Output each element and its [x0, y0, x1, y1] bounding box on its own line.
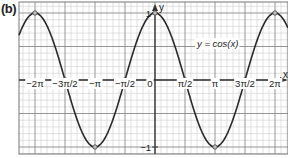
data-point	[93, 145, 97, 149]
data-point	[33, 11, 37, 15]
data-point	[273, 11, 277, 15]
cosine-plot: −2π−3π/2−π−π/20π/2π3π/22π 1−1 y = cos(x)…	[0, 0, 288, 158]
x-tick-label: −2π	[26, 78, 44, 89]
data-point	[153, 11, 157, 15]
x-tick-label: −π	[89, 78, 102, 89]
x-tick-label: π	[212, 78, 219, 89]
y-tick-label: 1	[146, 8, 151, 19]
x-tick-label: π/2	[178, 78, 192, 89]
y-axis-label: y	[159, 2, 164, 13]
y-tick-label: −1	[140, 142, 151, 153]
x-tick-label: 0	[147, 78, 152, 89]
x-tick-label: −3π/2	[52, 78, 77, 89]
x-tick-label: −π/2	[115, 78, 135, 89]
x-axis-label: x	[283, 69, 288, 80]
data-point	[213, 145, 217, 149]
x-tick-label: 3π/2	[235, 78, 255, 89]
function-label: y = cos(x)	[196, 38, 238, 49]
x-tick-label: 2π	[269, 78, 281, 89]
